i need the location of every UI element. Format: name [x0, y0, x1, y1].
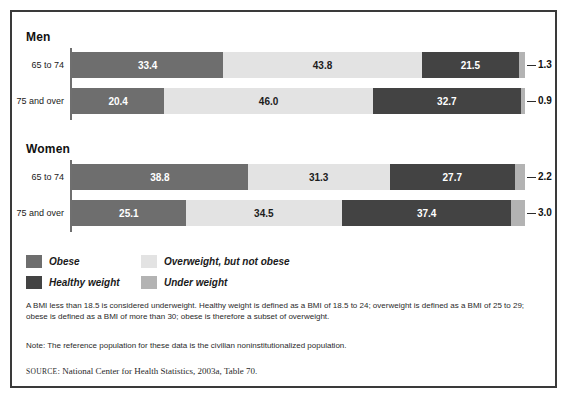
bar-segment-value: 27.7 [443, 172, 462, 183]
bar-row-label: 65 to 74 [12, 164, 64, 190]
bar-segment-overweight: 46.0 [164, 88, 372, 114]
bar-segment-overweight: 34.5 [186, 200, 342, 226]
stacked-bar: 25.134.537.4 [72, 200, 525, 226]
bar-segment-value: 37.4 [417, 208, 436, 219]
bar-segment-healthy: 27.7 [390, 164, 515, 190]
bar-segment-value: 20.4 [108, 96, 127, 107]
bar-segment-overweight: 43.8 [223, 52, 421, 78]
legend-swatch-under-weight-icon [141, 276, 157, 289]
under-weight-leader-line [527, 177, 536, 178]
bar-segment-healthy: 21.5 [422, 52, 519, 78]
under-weight-leader-line [527, 65, 536, 66]
chart-legend: Obese Overweight, but not obese Healthy … [26, 255, 526, 297]
bar-segment-under [515, 164, 525, 190]
legend-item-obese: Obese [26, 255, 80, 268]
legend-row: Healthy weight Under weight [26, 276, 526, 297]
bar-segment-value: 46.0 [259, 96, 278, 107]
stacked-bar: 20.446.032.7 [72, 88, 525, 114]
group-title: Men [26, 30, 51, 44]
bar-segment-value: 25.1 [119, 208, 138, 219]
bar-segment-value: 34.5 [254, 208, 273, 219]
chart-bar-row: 65 to 7433.443.821.51.3 [12, 52, 555, 78]
bar-segment-under [511, 200, 525, 226]
bar-row-label: 75 and over [12, 200, 64, 226]
bmi-definition-note: A BMI less than 18.5 is considered under… [26, 300, 534, 322]
bar-segment-healthy: 37.4 [342, 200, 511, 226]
source-text: : National Center for Health Statistics,… [57, 366, 257, 376]
bar-segment-obese: 25.1 [72, 200, 186, 226]
bar-segment-under [521, 88, 525, 114]
legend-item-overweight: Overweight, but not obese [141, 255, 290, 268]
legend-row: Obese Overweight, but not obese [26, 255, 526, 276]
legend-swatch-healthy-weight-icon [26, 276, 42, 289]
bar-segment-value: 33.4 [138, 60, 157, 71]
bar-row-label: 65 to 74 [12, 52, 64, 78]
under-weight-value-label: 0.9 [538, 88, 552, 114]
under-weight-value-label: 2.2 [538, 164, 552, 190]
legend-swatch-overweight-icon [141, 255, 157, 268]
bar-segment-healthy: 32.7 [373, 88, 521, 114]
legend-label-healthy-weight: Healthy weight [49, 277, 120, 288]
legend-label-overweight: Overweight, but not obese [164, 256, 290, 267]
bar-segment-overweight: 31.3 [248, 164, 390, 190]
bar-segment-value: 31.3 [309, 172, 328, 183]
bar-segment-under [519, 52, 525, 78]
bar-segment-value: 21.5 [461, 60, 480, 71]
source-note: SOURCE: National Center for Health Stati… [26, 366, 534, 377]
under-weight-value-label: 3.0 [538, 200, 552, 226]
legend-swatch-obese-icon [26, 255, 42, 268]
chart-bar-row: 75 and over20.446.032.70.9 [12, 88, 555, 114]
legend-label-under-weight: Under weight [164, 277, 227, 288]
chart-bar-row: 75 and over25.134.537.43.0 [12, 200, 555, 226]
under-weight-value-label: 1.3 [538, 52, 552, 78]
source-label: SOURCE [26, 367, 57, 376]
bar-segment-obese: 38.8 [72, 164, 248, 190]
chart-bar-row: 65 to 7438.831.327.72.2 [12, 164, 555, 190]
bar-segment-obese: 20.4 [72, 88, 164, 114]
reference-population-note: Note: The reference population for these… [26, 340, 534, 351]
under-weight-leader-line [527, 213, 536, 214]
bar-segment-obese: 33.4 [72, 52, 223, 78]
under-weight-leader-line [527, 101, 536, 102]
stacked-bar: 33.443.821.5 [72, 52, 525, 78]
bar-segment-value: 32.7 [437, 96, 456, 107]
legend-label-obese: Obese [49, 256, 80, 267]
legend-item-healthy-weight: Healthy weight [26, 276, 120, 289]
stacked-bar: 38.831.327.7 [72, 164, 525, 190]
legend-item-under-weight: Under weight [141, 276, 227, 289]
figure-panel: Men65 to 7433.443.821.51.375 and over20.… [10, 10, 557, 388]
bar-segment-value: 43.8 [313, 60, 332, 71]
group-title: Women [26, 142, 70, 156]
bar-row-label: 75 and over [12, 88, 64, 114]
bar-segment-value: 38.8 [150, 172, 169, 183]
